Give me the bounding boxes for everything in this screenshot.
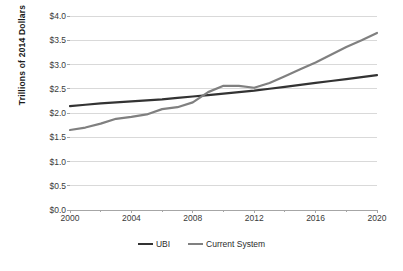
plot-area <box>0 0 403 271</box>
legend-label: Current System <box>206 239 265 249</box>
chart-container: Trillions of 2014 Dollars $0.0$0.5$1.0$1… <box>0 0 403 271</box>
legend-item[interactable]: Current System <box>188 239 265 249</box>
x-tick-label: 2004 <box>122 213 141 223</box>
x-tick-label: 2000 <box>61 213 80 223</box>
series-line-ubi <box>70 75 377 106</box>
legend-swatch-icon <box>188 243 203 246</box>
x-tick-label: 2016 <box>306 213 325 223</box>
data-series <box>70 33 377 130</box>
legend-label: UBI <box>156 239 170 249</box>
legend-item[interactable]: UBI <box>138 239 170 249</box>
chart-legend: UBICurrent System <box>0 239 403 249</box>
x-tick-label: 2020 <box>368 213 387 223</box>
x-tick-label: 2012 <box>245 213 264 223</box>
x-tick-label: 2008 <box>183 213 202 223</box>
y-axis-ticks <box>67 16 70 210</box>
x-axis-tick-labels: 200020042008201220162020 <box>70 213 377 229</box>
gridlines <box>70 16 377 186</box>
legend-swatch-icon <box>138 243 153 246</box>
